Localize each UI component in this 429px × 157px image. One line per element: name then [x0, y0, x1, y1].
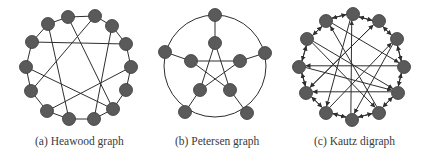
arc: [310, 25, 374, 88]
node: [234, 55, 247, 68]
caption-petersen: (b) Petersen graph: [175, 135, 259, 147]
node: [224, 84, 237, 97]
node: [346, 114, 359, 127]
node: [320, 15, 333, 28]
graph-figure: [0, 0, 429, 157]
node: [63, 113, 76, 126]
node: [62, 11, 75, 24]
node: [88, 113, 101, 126]
edge: [47, 67, 131, 111]
arc: [332, 23, 399, 62]
node: [125, 61, 138, 74]
node: [241, 107, 254, 120]
arc: [383, 26, 392, 35]
node: [209, 9, 222, 22]
node: [392, 87, 405, 100]
node: [209, 37, 222, 50]
arc: [398, 73, 401, 86]
node: [159, 46, 172, 59]
node: [120, 38, 133, 51]
node: [347, 8, 360, 21]
arc: [333, 114, 346, 118]
node: [301, 33, 314, 46]
arc: [327, 20, 351, 106]
node: [89, 10, 102, 23]
kautz-digraph: [293, 8, 411, 127]
node: [320, 107, 333, 120]
node: [185, 55, 198, 68]
caption-heawood: (a) Heawood graph: [35, 135, 124, 147]
node: [373, 107, 386, 120]
arc: [330, 43, 392, 108]
node: [373, 15, 386, 28]
node: [398, 61, 411, 74]
arc: [358, 113, 372, 117]
node: [293, 61, 306, 74]
node: [179, 106, 192, 119]
node: [120, 84, 133, 97]
arc: [332, 14, 346, 18]
node: [106, 20, 119, 33]
arc: [397, 46, 401, 61]
node: [391, 33, 404, 46]
arc: [383, 97, 393, 108]
node: [259, 47, 272, 60]
star-edge: [215, 43, 230, 90]
petersen-graph: [159, 9, 272, 120]
arc: [302, 73, 306, 86]
node: [107, 103, 120, 116]
edge: [32, 42, 126, 44]
edge: [68, 17, 113, 109]
node: [42, 18, 55, 31]
caption-kautz: (c) Kautz digraph: [314, 135, 395, 147]
node: [25, 85, 38, 98]
node: [300, 87, 313, 100]
heawood-graph: [20, 10, 138, 126]
node: [41, 105, 54, 118]
arc: [311, 97, 322, 108]
arc: [302, 46, 306, 62]
node: [26, 36, 39, 49]
star-edge: [200, 43, 215, 90]
node: [20, 61, 33, 74]
arc: [313, 26, 323, 35]
node: [194, 84, 207, 97]
arc: [359, 17, 372, 21]
